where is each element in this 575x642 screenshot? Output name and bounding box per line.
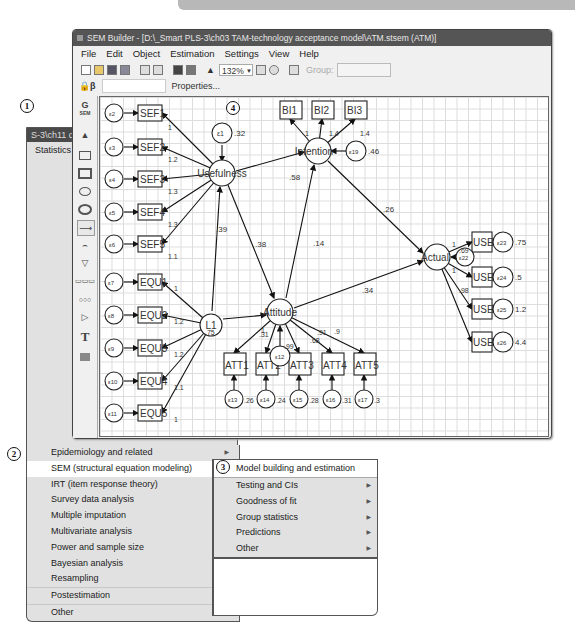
submenu-item-label: Model building and estimation: [236, 463, 355, 473]
indicator-label: SEF5: [140, 239, 165, 250]
print-icon[interactable]: [120, 65, 130, 75]
submenu-item-testing-and-cis[interactable]: Testing and CIs▶: [214, 478, 377, 494]
beta-label: β: [90, 81, 96, 91]
menu-item-resampling[interactable]: Resampling▶: [27, 571, 239, 587]
menu-item-multivariate-analysis[interactable]: Multivariate analysis▶: [27, 524, 239, 540]
menu-item-irt-item-response-theory[interactable]: IRT (item response theory): [27, 477, 239, 493]
redo-icon[interactable]: [186, 65, 196, 75]
observed-variable-tool-icon[interactable]: [77, 148, 93, 162]
path-arrow[interactable]: [228, 185, 274, 298]
menu-item-multiple-imputation[interactable]: Multiple imputation: [27, 508, 239, 524]
save-icon[interactable]: [107, 65, 117, 75]
menu-item-bayesian-analysis[interactable]: Bayesian analysis▶: [27, 556, 239, 572]
submenu-item-goodness-of-fit[interactable]: Goodness of fit▶: [214, 494, 377, 510]
menu-item-label: Epidemiology and related: [51, 447, 153, 457]
loading-label: 1.4: [360, 130, 370, 137]
error-label: ε3: [109, 145, 116, 151]
text-tool-icon[interactable]: T: [77, 330, 93, 344]
error-label: ε23: [497, 240, 507, 246]
submenu-arrow-icon: ▶: [366, 478, 371, 494]
path-arrow[interactable]: [223, 315, 266, 319]
path-arrow[interactable]: [212, 187, 220, 311]
indicator-label: ATT5: [355, 360, 379, 371]
error-label: ε7: [108, 280, 115, 286]
menu-object[interactable]: Object: [133, 46, 160, 61]
loading-label: 1.3: [168, 221, 178, 228]
properties-button[interactable]: Properties...: [172, 81, 221, 91]
menu-item-other[interactable]: Other▶: [27, 604, 239, 621]
statistics-menu-header[interactable]: Statistics: [35, 145, 71, 155]
menu-settings[interactable]: Settings: [225, 46, 259, 61]
menu-view[interactable]: View: [269, 46, 289, 61]
submenu-item-group-statistics[interactable]: Group statistics▶: [214, 510, 377, 526]
diagram-canvas[interactable]: SEF1ε21SEF2ε31.2SEF3ε41.3SEF4ε51.3SEF5ε6…: [99, 96, 549, 437]
menu-estimation[interactable]: Estimation: [170, 46, 214, 61]
menu-edit[interactable]: Edit: [106, 46, 122, 61]
menu-item-label: SEM (structural equation modeling): [51, 463, 192, 473]
menu-item-survey-data-analysis[interactable]: Survey data analysis▶: [27, 492, 239, 508]
path-arrow[interactable]: [162, 325, 211, 413]
measurement-component-tool-icon[interactable]: ▽: [77, 256, 93, 270]
latent-variable-tool-icon[interactable]: [77, 184, 93, 198]
indicator-label: ATT4: [323, 360, 347, 371]
covariance-tool-icon[interactable]: ⌢: [77, 238, 93, 252]
zoom-value: 132%: [222, 65, 244, 75]
error-label: ε22: [459, 255, 469, 261]
submenu-item-model-building-and-estimation[interactable]: Model building and estimation: [214, 460, 377, 478]
generalized-latent-tool-icon[interactable]: [77, 202, 93, 216]
path-coef-label: .34: [362, 286, 374, 295]
menu-item-label: Other: [51, 607, 74, 617]
open-icon[interactable]: [94, 65, 104, 75]
indicator-label: EQU3: [140, 343, 168, 354]
paste-icon[interactable]: [153, 65, 163, 75]
path-arrow[interactable]: [286, 165, 314, 298]
path-tool-icon[interactable]: ⟶: [77, 220, 95, 236]
submenu-item-predictions[interactable]: Predictions▶: [214, 525, 377, 541]
add-latents-tool-icon[interactable]: ○○○: [77, 292, 93, 306]
loading-label: 1: [261, 327, 265, 334]
center-icon[interactable]: [269, 65, 279, 75]
loading-label: .9: [334, 328, 340, 335]
select-tool-icon[interactable]: ▲: [77, 128, 93, 142]
path-arrow[interactable]: [294, 261, 423, 308]
menu-item-label: Postestimation: [51, 590, 110, 600]
menu-item-label: Power and sample size: [51, 542, 144, 552]
indicator-label: SEF3: [140, 174, 165, 185]
lock-beta-icon[interactable]: 🔒β: [79, 81, 96, 91]
submenu-arrow-icon: ▶: [366, 541, 371, 557]
copy-icon[interactable]: [140, 65, 150, 75]
submenu-item-label: Goodness of fit: [236, 496, 297, 506]
group-select[interactable]: [337, 63, 391, 77]
zoom-select[interactable]: 132%▼: [219, 64, 253, 76]
paths-component-tool-icon[interactable]: ▷: [77, 310, 93, 324]
variance-label: .46: [368, 147, 380, 156]
pointer-tool-icon[interactable]: ▲: [206, 65, 216, 75]
menu-item-epidemiology-and-related[interactable]: Epidemiology and related▶: [27, 445, 239, 461]
generalized-observed-tool-icon[interactable]: [77, 166, 93, 180]
regression-component-tool-icon[interactable]: ▭▭▭: [77, 274, 93, 288]
fit-to-window-icon[interactable]: [256, 65, 266, 75]
sem-submenu: Model building and estimationTesting and…: [212, 459, 378, 616]
path-arrow[interactable]: [162, 173, 222, 244]
properties-bar: 🔒β Properties...: [73, 78, 551, 94]
new-icon[interactable]: [81, 65, 91, 75]
error-label: ε9: [108, 346, 115, 352]
menu-item-label: Multiple imputation: [51, 510, 126, 520]
menu-help[interactable]: Help: [299, 46, 319, 61]
estimate-icon[interactable]: [289, 65, 299, 75]
menu-item-sem-structural-equation-modeling[interactable]: SEM (structural equation modeling)▶: [27, 461, 239, 477]
menu-item-power-and-sample-size[interactable]: Power and sample size: [27, 540, 239, 556]
error-label: ε5: [109, 210, 116, 216]
submenu-item-other[interactable]: Other▶: [214, 541, 377, 557]
properties-input[interactable]: [102, 79, 166, 93]
loading-label: 1: [305, 130, 309, 137]
error-label: ε15: [293, 397, 303, 403]
area-tool-icon[interactable]: [77, 350, 93, 364]
path-arrow[interactable]: [328, 161, 423, 253]
menu-item-postestimation[interactable]: Postestimation: [27, 587, 239, 604]
undo-icon[interactable]: [173, 65, 183, 75]
sem-generate-icon[interactable]: GSEM: [77, 102, 93, 116]
loading-label: 1: [174, 285, 178, 292]
menu-file[interactable]: File: [81, 46, 96, 61]
loading-label: 1.3: [168, 188, 178, 195]
